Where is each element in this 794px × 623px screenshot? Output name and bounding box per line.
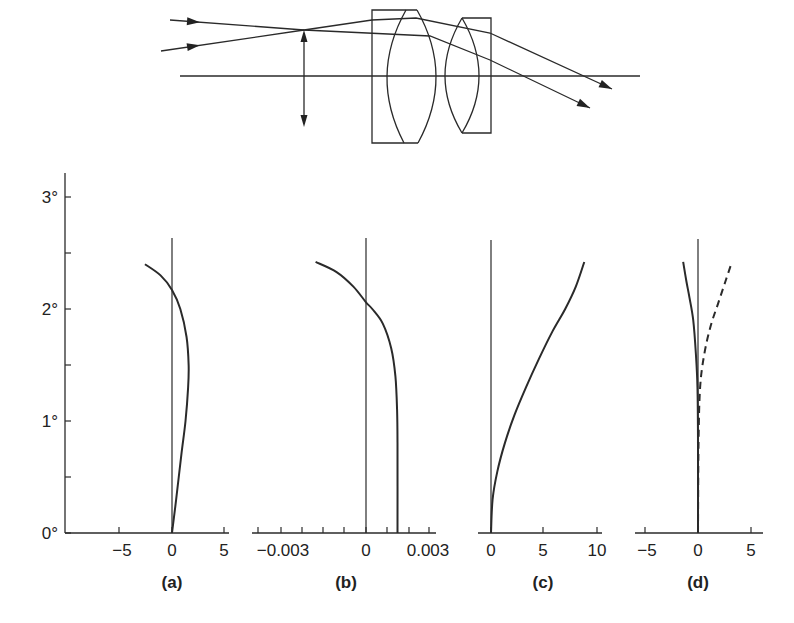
arrow-down-icon — [301, 115, 308, 127]
curve-d-dashed — [698, 262, 732, 533]
x-tick-label: 5 — [538, 541, 547, 560]
ray-upper-incoming — [170, 20, 590, 108]
x-tick-label: −5 — [112, 541, 131, 560]
x-tick-label: 0 — [167, 541, 176, 560]
y-tick-label: 0° — [42, 524, 58, 543]
arrow-up-icon — [301, 30, 308, 42]
panel-a: −505(a) — [65, 238, 229, 592]
panel-c: 0510(c) — [478, 240, 606, 592]
panel-label: (b) — [335, 573, 357, 592]
aberration-panels: −505(a)−0.00300.003(b)0510(c)−505(d) — [65, 238, 763, 592]
ray-arrow-icon — [187, 17, 200, 25]
x-tick-label: 10 — [588, 541, 607, 560]
ray-arrow-icon — [577, 99, 590, 108]
y-axis: 0°1°2°3° — [42, 173, 71, 543]
x-tick-label: 0 — [361, 541, 370, 560]
panel-d: −505(d) — [635, 239, 763, 592]
ray-arrow-icon — [599, 80, 612, 89]
panel-label: (a) — [162, 573, 183, 592]
panel-label: (d) — [687, 573, 709, 592]
ray-arrow-icon — [187, 43, 200, 51]
lens-diagram — [161, 10, 640, 143]
x-tick-label: 0 — [486, 541, 495, 560]
curve-d-solid — [683, 262, 698, 533]
curve-a — [145, 264, 189, 533]
y-tick-label: 3° — [42, 188, 58, 207]
figure: 0°1°2°3° −505(a)−0.00300.003(b)0510(c)−5… — [0, 0, 794, 623]
panel-label: (c) — [533, 573, 554, 592]
x-tick-label: 5 — [746, 541, 755, 560]
panel-b: −0.00300.003(b) — [252, 238, 449, 592]
x-tick-label: 0.003 — [407, 541, 450, 560]
y-tick-label: 2° — [42, 300, 58, 319]
curve-b — [316, 262, 398, 533]
x-tick-label: 5 — [219, 541, 228, 560]
y-tick-label: 1° — [42, 412, 58, 431]
x-tick-label: 0 — [693, 541, 702, 560]
x-tick-label: −5 — [637, 541, 656, 560]
x-tick-label: −0.003 — [257, 541, 309, 560]
curve-c — [491, 262, 584, 533]
